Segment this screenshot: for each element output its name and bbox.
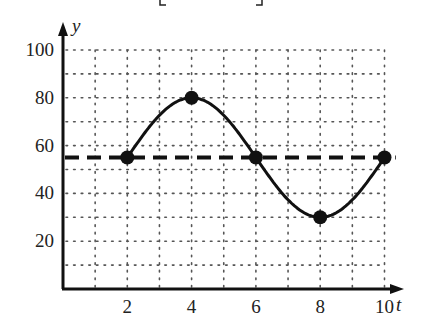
top-fragment: [160, 0, 262, 5]
y-tick-label: 80: [35, 87, 54, 108]
data-point-marker: [313, 210, 327, 224]
y-axis-arrow-icon: [58, 22, 68, 36]
x-tick-label: 10: [375, 296, 394, 317]
data-point-marker: [185, 91, 199, 105]
data-point-marker: [249, 151, 263, 165]
x-tick-label: 6: [251, 296, 261, 317]
x-tick-label: 4: [187, 296, 197, 317]
x-tick-label: 8: [315, 296, 325, 317]
y-tick-labels: 20406080100: [26, 39, 55, 251]
data-point-marker: [120, 151, 134, 165]
x-tick-labels: 246810: [123, 296, 394, 317]
x-tick-label: 2: [123, 296, 133, 317]
y-tick-label: 100: [26, 39, 55, 60]
y-tick-label: 20: [35, 230, 54, 251]
x-axis-label: t: [396, 294, 402, 315]
x-axis-arrow-icon: [390, 284, 404, 294]
y-axis-label: y: [70, 15, 81, 36]
grid: [66, 50, 385, 287]
data-point-marker: [378, 151, 392, 165]
y-tick-label: 40: [35, 182, 54, 203]
chart: y t 20406080100 246810: [0, 0, 426, 332]
y-tick-label: 60: [35, 135, 54, 156]
